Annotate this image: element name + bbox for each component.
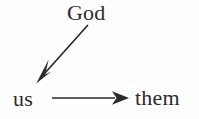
node-label-them: them <box>135 87 180 109</box>
node-label-us: us <box>13 88 33 110</box>
arrow-god-to-us <box>36 26 87 84</box>
arrow-us-to-them <box>52 91 129 105</box>
diagram-canvas: God us them <box>0 0 199 119</box>
node-label-god: God <box>67 2 106 24</box>
